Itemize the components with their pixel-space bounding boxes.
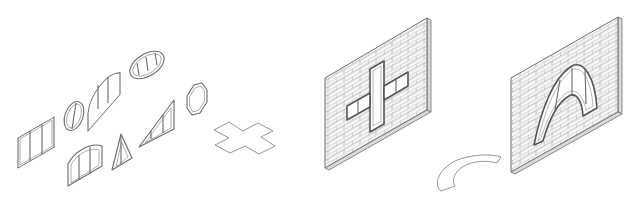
isometric-diagram: [0, 0, 637, 206]
brick-wall-with-arch-opening: [511, 17, 622, 174]
cross-opening-vertical: [370, 61, 384, 132]
triangle-window: [112, 134, 132, 170]
half-round-window: [88, 70, 120, 131]
right-triangle-window: [139, 100, 174, 147]
octagonal-window: [187, 83, 207, 115]
arc-profile: [437, 155, 501, 191]
elliptical-window: [125, 46, 169, 85]
rectangular-window: [18, 117, 54, 168]
window-library: [18, 46, 207, 186]
segmental-arch-window: [68, 145, 102, 186]
brick-wall-with-cross-opening: [325, 18, 431, 170]
circular-window: [60, 99, 87, 133]
cross-profile: [214, 122, 275, 154]
